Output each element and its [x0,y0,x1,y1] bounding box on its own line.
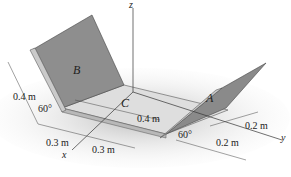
dim-base-x-2: 0.3 m [92,145,115,155]
dim-right-angle: 60° [178,130,192,140]
dim-base-depth: 0.4 m [137,114,160,124]
dim-right-y-2: 0.2 m [216,138,239,148]
dim-left-height: 0.4 m [13,92,36,102]
z-axis-label: z [129,0,133,10]
dim-base-x-1: 0.3 m [46,138,69,148]
plate-a-label: A [206,92,213,104]
plate-b-label: B [73,64,80,76]
dim-right-y-1: 0.2 m [245,121,268,131]
bent-plate-drawing [0,0,291,177]
dim-left-angle: 60° [38,104,52,114]
figure: z x y B A C 0.4 m 60° 0.3 m 0.3 m 0.4 m … [0,0,291,177]
y-axis-label: y [281,133,285,143]
x-axis-label: x [62,150,66,160]
point-c-label: C [121,97,129,109]
